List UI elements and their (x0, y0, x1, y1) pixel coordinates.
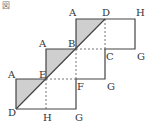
label-bot-G: G (107, 81, 115, 92)
label-bot-E: E (39, 69, 46, 80)
figure-title: 図 (2, 1, 10, 10)
label-top-H: H (136, 7, 145, 18)
label-top-D: D (102, 7, 110, 18)
label-bot-A: A (7, 69, 16, 80)
label-bot-F: F (77, 81, 84, 92)
label-top-A: A (68, 7, 77, 18)
label-base-D: D (8, 107, 16, 118)
label-mid-B: B (68, 38, 75, 49)
label-mid-A: A (38, 38, 47, 49)
label-mid-C: C (106, 51, 114, 62)
diagonal-line (16, 19, 105, 109)
label-base-H: H (43, 112, 52, 123)
staircase-squares-diagram: 図 A D H A B C G A E F G D H G (0, 0, 147, 125)
label-base-G: G (75, 112, 83, 123)
outer-outline (16, 19, 135, 109)
label-mid-G: G (137, 51, 145, 62)
